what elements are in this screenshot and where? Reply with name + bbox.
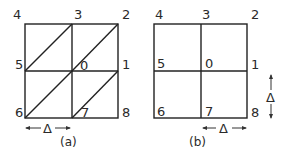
horizontal-spacing-arrow-b: Δ bbox=[202, 121, 247, 136]
node-label-3: 3 bbox=[74, 7, 82, 22]
node-label-3: 3 bbox=[202, 7, 210, 22]
node-label-4: 4 bbox=[13, 7, 21, 22]
diagram-canvas: 4 3 2 5 0 1 6 7 8 Δ (a) 4 3 2 5 0 1 6 7 … bbox=[0, 0, 289, 148]
caption-a: (a) bbox=[60, 135, 77, 148]
diagonal-6-0 bbox=[25, 71, 72, 118]
node-label-1: 1 bbox=[122, 57, 130, 72]
node-label-0: 0 bbox=[205, 56, 213, 71]
node-label-5: 5 bbox=[15, 57, 23, 72]
caption-b: (b) bbox=[189, 135, 206, 148]
node-label-2: 2 bbox=[251, 7, 259, 22]
spacing-arrow-a: Δ bbox=[25, 121, 71, 136]
node-label-4: 4 bbox=[155, 7, 163, 22]
node-label-2: 2 bbox=[122, 7, 130, 22]
diagonal-5-3 bbox=[25, 24, 72, 71]
node-label-0: 0 bbox=[80, 58, 88, 73]
node-label-7: 7 bbox=[81, 105, 89, 120]
node-label-8: 8 bbox=[122, 105, 130, 120]
delta-label-a: Δ bbox=[43, 121, 52, 136]
node-label-7: 7 bbox=[205, 104, 213, 119]
diagonal-7-1 bbox=[72, 71, 118, 118]
diagonal-0-2 bbox=[72, 24, 118, 71]
vertical-spacing-arrow-b: Δ bbox=[266, 74, 275, 119]
figure-a: 4 3 2 5 0 1 6 7 8 Δ (a) bbox=[13, 7, 130, 148]
delta-label-b-vertical: Δ bbox=[266, 90, 275, 105]
delta-label-b-horizontal: Δ bbox=[219, 121, 228, 136]
node-label-6: 6 bbox=[15, 105, 23, 120]
node-label-1: 1 bbox=[251, 57, 259, 72]
figure-b: 4 3 2 5 0 1 6 7 8 Δ Δ (b) bbox=[154, 7, 275, 148]
node-label-6: 6 bbox=[157, 104, 165, 119]
node-label-8: 8 bbox=[251, 105, 259, 120]
node-label-5: 5 bbox=[157, 56, 165, 71]
